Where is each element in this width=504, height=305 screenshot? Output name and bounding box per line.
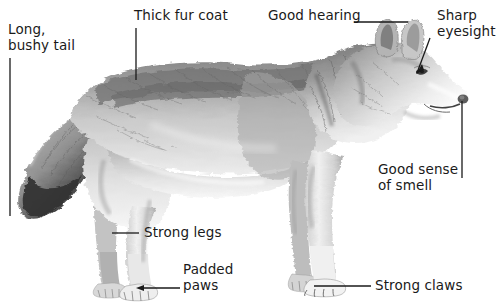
label-good-sense-of-smell-line2: of smell xyxy=(378,177,432,193)
label-padded-paws-line2: paws xyxy=(183,277,218,293)
label-good-hearing-line1: Good hearing xyxy=(268,7,361,23)
label-sharp-eyesight: Sharpeyesight xyxy=(437,8,496,39)
label-padded-paws-line1: Padded xyxy=(183,261,233,277)
label-thick-fur-coat: Thick fur coat xyxy=(134,8,228,24)
label-good-hearing: Good hearing xyxy=(268,8,361,24)
wolf-illustration xyxy=(0,0,504,305)
label-strong-claws-line1: Strong claws xyxy=(375,277,463,293)
label-sharp-eyesight-line2: eyesight xyxy=(437,23,496,39)
label-sharp-eyesight-line1: Sharp xyxy=(437,7,477,23)
label-strong-claws: Strong claws xyxy=(375,278,463,294)
label-long-bushy-tail: Long,bushy tail xyxy=(8,22,75,53)
wolf-adaptations-diagram: Long,bushy tail Thick fur coat Good hear… xyxy=(0,0,504,305)
label-padded-paws: Paddedpaws xyxy=(183,262,233,293)
label-strong-legs-line1: Strong legs xyxy=(144,224,222,240)
label-long-bushy-tail-line1: Long, xyxy=(8,21,45,37)
label-strong-legs: Strong legs xyxy=(144,225,222,241)
label-good-sense-of-smell-line1: Good sense xyxy=(378,161,458,177)
label-thick-fur-coat-line1: Thick fur coat xyxy=(134,7,228,23)
label-good-sense-of-smell: Good senseof smell xyxy=(378,162,458,193)
label-long-bushy-tail-line2: bushy tail xyxy=(8,37,75,53)
